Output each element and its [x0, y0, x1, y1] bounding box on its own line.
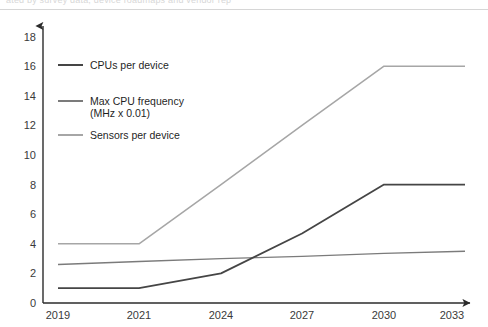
series-line-sensors-per-device: [58, 66, 465, 244]
legend-entry-max-cpu-frequency: Max CPU frequency (MHz x 0.01): [58, 95, 185, 120]
x-tick-label: 2033: [440, 309, 464, 321]
legend-entry-cpus-per-device: CPUs per device: [58, 59, 169, 71]
y-tick-label: 14: [24, 90, 36, 102]
y-tick-label: 2: [30, 267, 36, 279]
y-tick-labels: 0 2 4 6 8 10 12 14 16 18: [24, 31, 36, 309]
y-tick-label: 12: [24, 119, 36, 131]
legend-label-max-cpu-frequency: Max CPU frequency: [90, 95, 185, 107]
series-line-cpus-per-device: [58, 185, 465, 289]
x-tick-label: 2019: [46, 309, 70, 321]
y-tick-label: 6: [30, 208, 36, 220]
y-tick-label: 16: [24, 60, 36, 72]
legend-label-sensors-per-device: Sensors per device: [90, 129, 180, 141]
x-tick-labels: 2019 2021 2024 2027 2030 2033: [46, 309, 464, 321]
legend-entry-sensors-per-device: Sensors per device: [58, 129, 180, 141]
x-tick-label: 2021: [127, 309, 151, 321]
y-tick-label: 10: [24, 149, 36, 161]
y-tick-label: 18: [24, 31, 36, 43]
y-tick-label: 8: [30, 179, 36, 191]
x-tick-label: 2030: [372, 309, 396, 321]
chart-figure: ated by survey data, device roadmaps and…: [0, 0, 488, 327]
y-tick-label: 4: [30, 238, 36, 250]
y-tick-label: 0: [30, 297, 36, 309]
line-chart-plot: 0 2 4 6 8 10 12 14 16 18 2019 2021 2024 …: [0, 0, 488, 327]
x-tick-label: 2024: [209, 309, 233, 321]
legend-label-max-cpu-frequency-units: (MHz x 0.01): [90, 107, 150, 119]
chart-legend: CPUs per device Max CPU frequency (MHz x…: [58, 59, 185, 141]
legend-label-cpus-per-device: CPUs per device: [90, 59, 169, 71]
x-tick-label: 2027: [290, 309, 314, 321]
